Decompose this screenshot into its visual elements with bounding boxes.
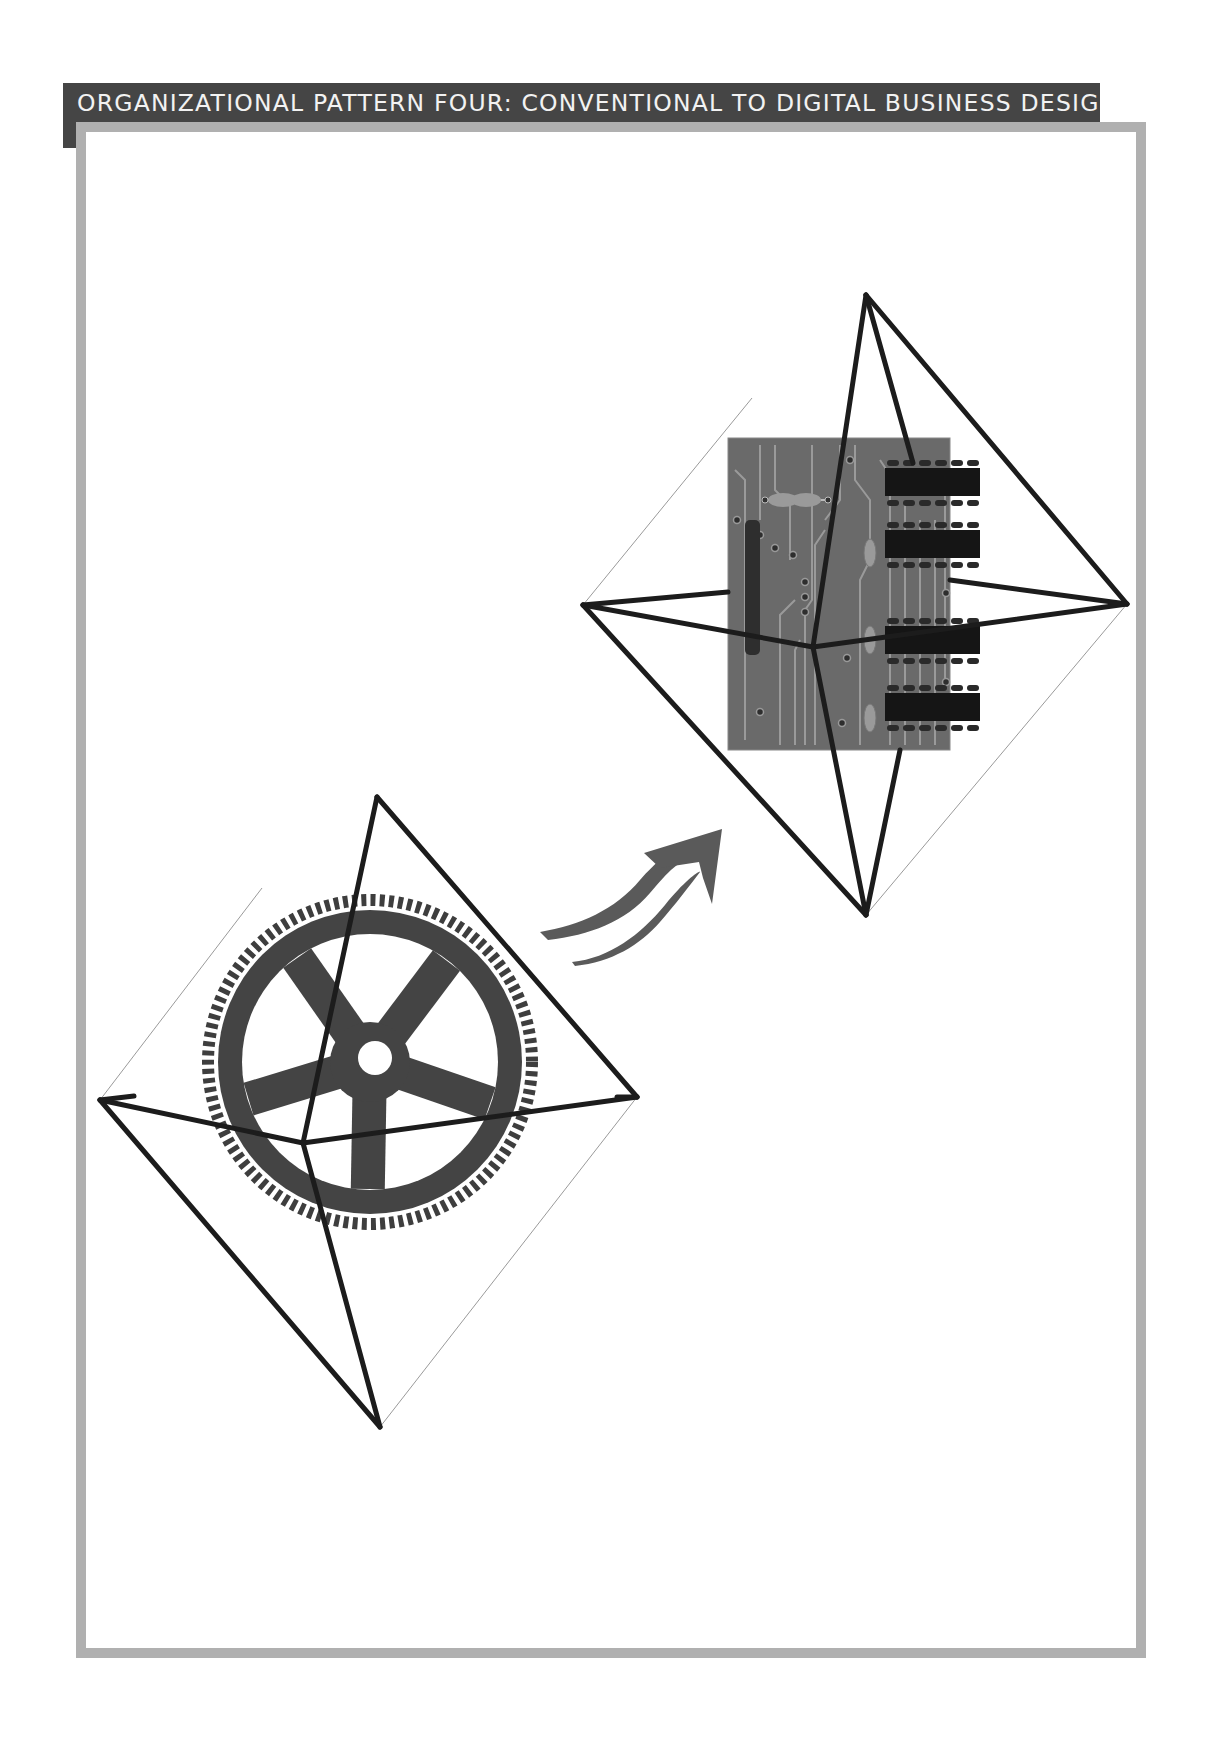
- banner-tab: [63, 120, 77, 148]
- page-title: ORGANIZATIONAL PATTERN FOUR: CONVENTIONA…: [77, 89, 1100, 117]
- page-title-banner: ORGANIZATIONAL PATTERN FOUR: CONVENTIONA…: [63, 83, 1100, 123]
- figure-frame: [76, 122, 1146, 1658]
